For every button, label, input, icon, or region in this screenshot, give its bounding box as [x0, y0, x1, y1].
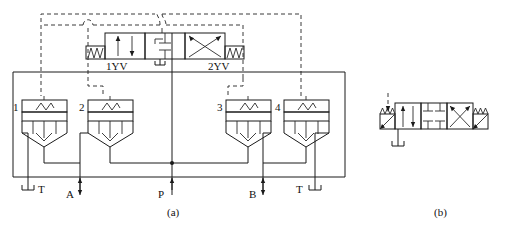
port-tank-right-label: T	[296, 183, 303, 195]
solenoid-2yv-label: 2YV	[208, 60, 229, 72]
relief-valve-1-label: 1	[13, 101, 19, 113]
pressure-relief-valve-2[interactable]	[88, 96, 133, 147]
pressure-relief-valve-3[interactable]	[226, 96, 271, 147]
port-b-arrow	[261, 178, 265, 195]
relief-valve-4-label: 4	[275, 101, 281, 113]
pilot-line-jumper-right-b	[162, 14, 166, 25]
panel-b-valve[interactable]	[380, 93, 488, 146]
port-tank-left-label: T	[38, 183, 45, 195]
port-a-arrow	[78, 178, 82, 195]
pipe-valve2-to-p-rail	[110, 147, 172, 163]
hydraulic-circuit-svg: 1YV 2YV 1	[0, 0, 510, 225]
pilot-line-jumper-left	[83, 20, 93, 25]
pilot-line-left-outer	[41, 14, 155, 22]
pipe-valve4-to-b-rail	[263, 147, 306, 163]
panel-b-drain	[392, 129, 404, 146]
panel-b-left-arrows	[401, 106, 415, 127]
pressure-relief-valve-4[interactable]	[284, 96, 329, 147]
diagram-root: 1YV 2YV 1	[0, 0, 510, 225]
pilot-line-jumper-right-a	[157, 14, 160, 25]
piping-network	[22, 33, 329, 190]
pipe-valve2-left-leg	[80, 133, 88, 163]
pilot-line-to-valve-2	[88, 28, 103, 96]
panel-b-caption: (b)	[434, 206, 447, 219]
solenoid-2yv[interactable]	[225, 46, 244, 59]
relief-valve-2-label: 2	[79, 101, 85, 113]
port-p-label: P	[158, 188, 164, 200]
valve-center-spring-detail	[155, 59, 165, 65]
panel-b-right-arrows	[450, 106, 470, 127]
panel-b-position-left	[395, 103, 421, 129]
valve-right-position-arrows	[189, 36, 221, 57]
panel-b-position-center	[421, 103, 447, 129]
panel-b-solenoid-left[interactable]	[380, 108, 395, 129]
relief-valve-3-label: 3	[217, 101, 223, 113]
pilot-line-network	[41, 14, 301, 96]
pipe-valve4-to-tank-right	[315, 133, 329, 190]
pipe-valve3-to-p-rail	[172, 147, 248, 163]
port-p-arrow	[170, 178, 174, 195]
pipe-valve1-to-a-rail	[44, 147, 80, 163]
valve-left-position-arrows	[116, 36, 135, 56]
pilot-line-to-valve-3	[228, 78, 243, 96]
pressure-relief-valve-1[interactable]	[22, 96, 67, 147]
solenoid-1yv-label: 1YV	[106, 60, 127, 72]
port-a-label: A	[66, 188, 74, 200]
valve-position-left	[105, 33, 145, 59]
port-b-label: B	[249, 188, 256, 200]
valve-center-position-blocks	[159, 33, 171, 59]
solenoid-1yv[interactable]	[86, 46, 105, 59]
panel-b-center-blocks	[423, 103, 445, 129]
pipe-valve1-to-tank-left	[22, 133, 28, 190]
panel-b-solenoid-right[interactable]	[473, 108, 488, 129]
panel-a-caption: (a)	[167, 206, 180, 219]
